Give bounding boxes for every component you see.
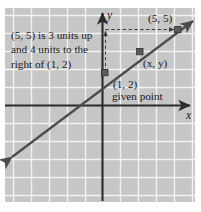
point-marker-upper bbox=[175, 26, 181, 32]
point-label-generic: (x, y) bbox=[143, 57, 167, 70]
coordinate-plane-figure: (5, 5) is 3 units up and 4 units to the … bbox=[0, 0, 201, 212]
point-label-upper: (5, 5) bbox=[148, 12, 172, 25]
point-caption-given: given point bbox=[112, 90, 163, 103]
explanatory-note: (5, 5) is 3 units up and 4 units to the … bbox=[11, 28, 99, 71]
x-axis-label: x bbox=[186, 109, 191, 122]
point-marker-given bbox=[102, 69, 108, 75]
y-axis-label: y bbox=[107, 9, 112, 22]
point-marker-generic bbox=[137, 48, 143, 54]
